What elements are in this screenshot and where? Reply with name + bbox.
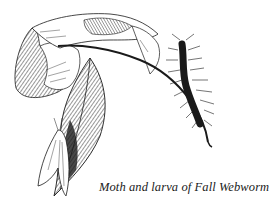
figure-caption: Moth and larva of Fall Webworm (99, 180, 273, 195)
figure: Moth and larva of Fall Webworm (0, 0, 273, 212)
